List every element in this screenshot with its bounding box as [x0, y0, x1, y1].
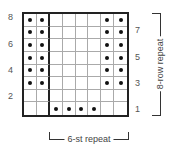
chart-cell: [114, 77, 127, 90]
chart-cell: [37, 52, 50, 65]
chart-cell: [50, 102, 63, 115]
purl-dot-icon: [79, 107, 83, 111]
chart-cell: [76, 77, 89, 90]
chart-cell: [88, 65, 101, 78]
row-number-6: 6: [8, 39, 13, 49]
row-number-8: 8: [8, 12, 13, 22]
purl-dot-icon: [92, 107, 96, 111]
chart-cell: [101, 39, 114, 52]
chart-cell: [63, 14, 76, 27]
chart-cell: [24, 52, 37, 65]
chart-cell: [63, 90, 76, 103]
purl-dot-icon: [40, 68, 44, 72]
purl-dot-icon: [119, 43, 123, 47]
chart-cell: [63, 39, 76, 52]
chart-cell: [101, 27, 114, 40]
chart-cell: [24, 65, 37, 78]
chart-cell: [50, 39, 63, 52]
row-number-1: 1: [135, 104, 140, 114]
purl-dot-icon: [119, 18, 123, 22]
chart-cell: [24, 102, 37, 115]
purl-dot-icon: [28, 18, 32, 22]
chart-cell: [88, 14, 101, 27]
chart-cell: [76, 65, 89, 78]
chart-cell: [24, 77, 37, 90]
purl-dot-icon: [28, 68, 32, 72]
purl-dot-icon: [40, 18, 44, 22]
purl-dot-icon: [105, 68, 109, 72]
chart-cell: [37, 14, 50, 27]
chart-cell: [114, 102, 127, 115]
chart-cell: [37, 90, 50, 103]
chart-cell: [114, 52, 127, 65]
purl-dot-icon: [67, 107, 71, 111]
chart-cell: [24, 90, 37, 103]
chart-cell: [50, 52, 63, 65]
chart-cell: [76, 102, 89, 115]
chart-cell: [24, 14, 37, 27]
purl-dot-icon: [40, 81, 44, 85]
purl-dot-icon: [40, 30, 44, 34]
knitting-chart-grid: [22, 12, 129, 117]
row-repeat-label: 8-row repeat: [155, 37, 165, 92]
purl-dot-icon: [105, 56, 109, 60]
chart-cell: [101, 77, 114, 90]
chart-cell: [63, 65, 76, 78]
purl-dot-icon: [119, 56, 123, 60]
purl-dot-icon: [105, 81, 109, 85]
row-number-2: 2: [8, 91, 13, 101]
chart-cell: [37, 65, 50, 78]
chart-cell: [114, 27, 127, 40]
purl-dot-icon: [105, 30, 109, 34]
purl-dot-icon: [105, 18, 109, 22]
chart-cell: [101, 102, 114, 115]
row-number-7: 7: [135, 25, 140, 35]
chart-cell: [88, 102, 101, 115]
chart-cell: [76, 39, 89, 52]
row-number-3: 3: [135, 78, 140, 88]
chart-cell: [114, 65, 127, 78]
chart-cell: [88, 39, 101, 52]
chart-cell: [76, 27, 89, 40]
chart-cell: [76, 52, 89, 65]
chart-cell: [88, 27, 101, 40]
chart-cell: [24, 27, 37, 40]
chart-cell: [50, 27, 63, 40]
chart-cell: [101, 65, 114, 78]
chart-cell: [114, 90, 127, 103]
chart-cell: [88, 77, 101, 90]
purl-dot-icon: [54, 107, 58, 111]
chart-cell: [76, 90, 89, 103]
purl-dot-icon: [119, 30, 123, 34]
purl-dot-icon: [119, 68, 123, 72]
purl-dot-icon: [28, 81, 32, 85]
chart-cell: [50, 65, 63, 78]
chart-cell: [114, 14, 127, 27]
chart-cell: [37, 39, 50, 52]
chart-cell: [114, 39, 127, 52]
purl-dot-icon: [28, 43, 32, 47]
chart-cell: [63, 102, 76, 115]
chart-cell: [50, 14, 63, 27]
purl-dot-icon: [28, 30, 32, 34]
chart-cell: [88, 90, 101, 103]
chart-cell: [101, 90, 114, 103]
purl-dot-icon: [105, 43, 109, 47]
chart-cell: [37, 27, 50, 40]
chart-cell: [24, 39, 37, 52]
row-number-5: 5: [135, 52, 140, 62]
purl-dot-icon: [40, 43, 44, 47]
chart-cell: [63, 77, 76, 90]
chart-cell: [63, 52, 76, 65]
chart-cell: [101, 14, 114, 27]
chart-cell: [88, 52, 101, 65]
chart-cell: [63, 27, 76, 40]
chart-cell: [76, 14, 89, 27]
stitch-repeat-label: 6-st repeat: [64, 134, 113, 144]
chart-cell: [37, 102, 50, 115]
purl-dot-icon: [40, 56, 44, 60]
chart-cell: [50, 77, 63, 90]
row-number-4: 4: [8, 65, 13, 75]
chart-cell: [50, 90, 63, 103]
chart-cell: [37, 77, 50, 90]
